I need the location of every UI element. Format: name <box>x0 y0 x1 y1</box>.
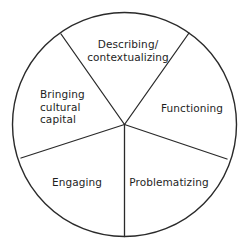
segment-label-line: Describing/ <box>98 38 159 50</box>
segment-label-line: Functioning <box>161 102 223 114</box>
segment-label-line: cultural <box>40 101 81 113</box>
segment-functioning: Functioning <box>161 102 223 114</box>
segment-engaging: Engaging <box>52 176 102 188</box>
segment-label-line: Bringing <box>40 88 85 100</box>
segment-label-line: Problematizing <box>129 176 209 188</box>
segment-label-line: contextualizing <box>87 51 169 63</box>
segment-label-line: Engaging <box>52 176 102 188</box>
segment-problematizing: Problematizing <box>129 176 209 188</box>
segment-label-line: capital <box>40 113 76 125</box>
segment-describing: Describing/ contextualizing <box>87 38 169 63</box>
segmented-circle-diagram: Describing/ contextualizing Functioning … <box>0 0 247 249</box>
